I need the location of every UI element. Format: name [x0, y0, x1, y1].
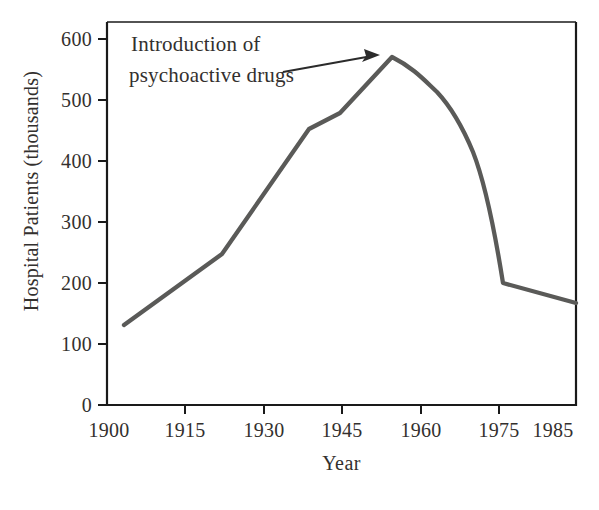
x-axis-title: Year — [107, 452, 576, 475]
y-tick-label-500: 500 — [46, 89, 92, 112]
x-tick-label-1900: 1900 — [88, 419, 129, 442]
annotation-arrow — [283, 49, 380, 72]
x-tick-label-1975: 1975 — [478, 419, 519, 442]
x-axis-ticks — [185, 405, 499, 414]
x-tick-label-1960: 1960 — [400, 419, 441, 442]
y-axis-title: Hospital Patients (thousands) — [14, 0, 48, 406]
x-tick-label-1985: 1985 — [532, 419, 573, 442]
y-tick-label-300: 300 — [46, 211, 92, 234]
x-tick-label-1945: 1945 — [321, 419, 362, 442]
chart-figure: 600 500 400 300 200 100 0 1900 1915 1930… — [0, 0, 599, 510]
annotation-text-line-2: psychoactive drugs — [129, 63, 294, 88]
y-axis-ticks — [98, 39, 107, 405]
y-tick-label-400: 400 — [46, 150, 92, 173]
y-tick-label-200: 200 — [46, 272, 92, 295]
y-tick-label-100: 100 — [46, 333, 92, 356]
data-series-hospital-patients — [124, 57, 576, 325]
annotation-text-line-1: Introduction of — [131, 32, 261, 57]
y-tick-label-600: 600 — [46, 28, 92, 51]
x-tick-label-1915: 1915 — [164, 419, 205, 442]
y-tick-label-0: 0 — [46, 394, 92, 417]
x-tick-label-1930: 1930 — [243, 419, 284, 442]
